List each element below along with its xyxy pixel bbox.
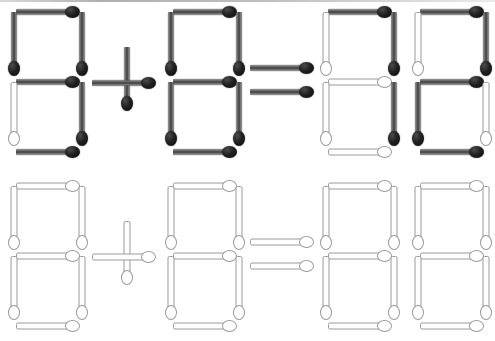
digit-1-segment-bottom[interactable] (16, 144, 78, 159)
digit-4-segment-top-right[interactable] (478, 12, 493, 74)
match-head-icon (222, 320, 237, 332)
plus-sign-top-plus-horizontal-match[interactable] (92, 75, 154, 90)
digit-5-segment-bottom-right[interactable] (74, 256, 89, 318)
digit-5-segment-top-left[interactable] (6, 186, 21, 248)
digit-1-segment-bottom-left[interactable] (6, 82, 21, 144)
digit-1-segment-bottom-right[interactable] (74, 82, 89, 144)
digit-1-segment-top[interactable] (16, 4, 78, 19)
digit-8-segment-bottom-right[interactable] (478, 256, 493, 318)
match-head-icon (141, 77, 156, 89)
digit-8-segment-top-left[interactable] (410, 186, 425, 248)
match-head-icon (299, 62, 314, 74)
digit-2-segment-top[interactable] (173, 4, 235, 19)
digit-2-segment-middle[interactable] (173, 74, 235, 89)
match-head-icon (299, 236, 314, 248)
digit-6-segment-bottom-left[interactable] (163, 256, 178, 318)
digit-4-segment-middle[interactable] (420, 74, 482, 89)
digit-2-segment-top-left[interactable] (163, 12, 178, 74)
digit-7-segment-top[interactable] (328, 178, 390, 193)
digit-5-segment-bottom-left[interactable] (6, 256, 21, 318)
digit-1-segment-middle[interactable] (16, 74, 78, 89)
digit-1-segment-top-left[interactable] (6, 12, 21, 74)
digit-6-segment-bottom-right[interactable] (231, 256, 246, 318)
digit-8-segment-top[interactable] (420, 178, 482, 193)
digit-6-segment-top-left[interactable] (163, 186, 178, 248)
digit-3-segment-top-right[interactable] (386, 12, 401, 74)
digit-4-segment-bottom-right[interactable] (478, 82, 493, 144)
plus-sign-bottom-plus-horizontal-match[interactable] (92, 249, 154, 264)
match-head-icon (141, 251, 156, 263)
digit-1-segment-top-right[interactable] (74, 12, 89, 74)
digit-3-segment-bottom-right[interactable] (386, 82, 401, 144)
digit-8-segment-bottom-left[interactable] (410, 256, 425, 318)
digit-6-segment-middle[interactable] (173, 248, 235, 263)
digit-5-segment-middle[interactable] (16, 248, 78, 263)
digit-4-segment-top-left[interactable] (410, 12, 425, 74)
digit-7-segment-bottom[interactable] (328, 318, 390, 333)
digit-5-segment-top-right[interactable] (74, 186, 89, 248)
digit-3-segment-middle[interactable] (328, 74, 390, 89)
digit-4-segment-bottom[interactable] (420, 144, 482, 159)
digit-8-segment-middle[interactable] (420, 248, 482, 263)
digit-5-segment-bottom[interactable] (16, 318, 78, 333)
digit-2-segment-top-right[interactable] (231, 12, 246, 74)
digit-3-segment-bottom-left[interactable] (318, 82, 333, 144)
digit-7-segment-bottom-right[interactable] (386, 256, 401, 318)
match-head-icon (469, 320, 484, 332)
match-head-icon (299, 86, 314, 98)
digit-3-segment-bottom[interactable] (328, 144, 390, 159)
digit-2-segment-bottom[interactable] (173, 144, 235, 159)
match-head-icon (65, 146, 80, 158)
matchstick-canvas (0, 0, 495, 341)
match-head-icon (377, 146, 392, 158)
digit-6-segment-top[interactable] (173, 178, 235, 193)
digit-4-segment-top[interactable] (420, 4, 482, 19)
digit-3-segment-top[interactable] (328, 4, 390, 19)
digit-8-segment-top-right[interactable] (478, 186, 493, 248)
match-head-icon (121, 96, 133, 111)
top-edge-artifact (0, 0, 495, 2)
digit-6-segment-bottom[interactable] (173, 318, 235, 333)
digit-2-segment-bottom-right[interactable] (231, 82, 246, 144)
equals-sign-top-equals-upper-match[interactable] (250, 60, 312, 75)
digit-6-segment-top-right[interactable] (231, 186, 246, 248)
digit-7-segment-top-left[interactable] (318, 186, 333, 248)
digit-7-segment-bottom-left[interactable] (318, 256, 333, 318)
match-head-icon (299, 260, 314, 272)
digit-3-segment-top-left[interactable] (318, 12, 333, 74)
equals-sign-bottom-equals-upper-match[interactable] (250, 234, 312, 249)
match-head-icon (377, 320, 392, 332)
digit-7-segment-middle[interactable] (328, 248, 390, 263)
match-head-icon (222, 146, 237, 158)
match-head-icon (121, 270, 133, 285)
equals-sign-top-equals-lower-match[interactable] (250, 84, 312, 99)
digit-7-segment-top-right[interactable] (386, 186, 401, 248)
equals-sign-bottom-equals-lower-match[interactable] (250, 258, 312, 273)
digit-5-segment-top[interactable] (16, 178, 78, 193)
digit-4-segment-bottom-left[interactable] (410, 82, 425, 144)
match-head-icon (469, 146, 484, 158)
digit-2-segment-bottom-left[interactable] (163, 82, 178, 144)
match-head-icon (65, 320, 80, 332)
digit-8-segment-bottom[interactable] (420, 318, 482, 333)
